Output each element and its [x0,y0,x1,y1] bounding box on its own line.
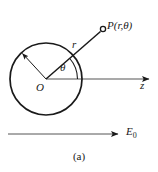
figure-caption: (a) [0,150,158,162]
theta-label: θ [60,62,65,73]
origin-label: O [36,82,44,93]
z-axis-label: z [140,80,144,91]
point-p-label: P(r,θ) [107,20,132,31]
sphere-radius-arrow [23,54,47,80]
figure-drawing [0,0,158,172]
field-e0-subscript: 0 [133,131,137,140]
radius-label: r [72,39,76,50]
field-e0-label: E0 [126,126,137,140]
theta-angle-arc [70,59,78,80]
figure-container: P(r,θ) r θ O z E0 (a) [0,0,158,172]
field-e0-symbol: E [126,125,133,137]
point-P-marker [100,26,105,31]
